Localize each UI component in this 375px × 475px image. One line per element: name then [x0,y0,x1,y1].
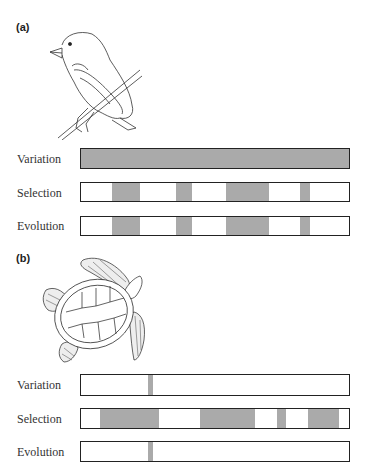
panel-b-label: (b) [16,252,30,264]
evolution-bar-a [80,216,350,236]
selection-segment [226,183,269,201]
row-label-selection: Selection [17,412,62,426]
evolution-segment [112,217,140,235]
evolution-bar-b [80,441,350,462]
evolution-segment [226,217,269,235]
row-label-variation: Variation [17,152,61,166]
evolution-segment [300,217,310,235]
selection-bar-a [80,182,350,202]
row-label-variation: Variation [17,378,61,392]
row-label-evolution: Evolution [17,219,64,233]
selection-segment [176,183,192,201]
variation-bar-a [80,148,350,169]
sea-turtle-illustration [38,252,153,367]
panel-a-label: (a) [16,21,29,33]
row-label-selection: Selection [17,186,62,200]
selection-segment [200,409,255,428]
finch-bird-illustration [40,20,150,140]
selection-segment [277,409,286,428]
selection-segment [308,409,339,428]
selection-segment [100,409,159,428]
selection-bar-b [80,408,350,429]
row-label-evolution: Evolution [17,445,64,459]
selection-segment [112,183,140,201]
evolution-segment [148,442,153,461]
evolution-segment [176,217,192,235]
variation-segment [148,375,153,395]
selection-segment [300,183,310,201]
variation-bar-b [80,374,350,396]
